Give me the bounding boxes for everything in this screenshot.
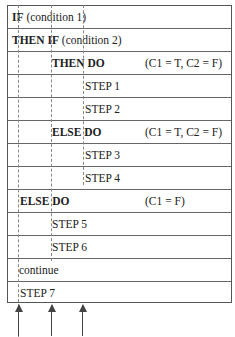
structured-code-table: IF (condition 1) THEN IF (condition 2) T… <box>7 5 232 303</box>
step-text: STEP 3 <box>85 148 120 162</box>
step-text: STEP 1 <box>85 79 120 93</box>
up-arrow-icon <box>18 305 19 336</box>
keyword: ELSE DO <box>52 125 102 139</box>
condition-note: (C1 = T, C2 = F) <box>145 125 222 139</box>
row-label: THEN IF (condition 2) <box>12 33 122 47</box>
row-then-if-condition-2: THEN IF (condition 2) <box>8 29 231 52</box>
indent-guide-level-2 <box>51 5 52 261</box>
condition-note: (C1 = F) <box>145 194 185 208</box>
indent-guide-level-3 <box>83 5 84 185</box>
keyword: ELSE DO <box>20 194 70 208</box>
row-then-do: THEN DO (C1 = T, C2 = F) <box>8 52 231 75</box>
step-text: continue <box>19 263 59 277</box>
condition-text: (condition 2) <box>59 34 122 46</box>
step-text: STEP 2 <box>85 102 120 116</box>
step-text: STEP 5 <box>52 217 87 231</box>
row-step-5: STEP 5 <box>8 213 231 236</box>
row-else-do-inner: ELSE DO (C1 = T, C2 = F) <box>8 121 231 144</box>
up-arrow-icon <box>82 305 83 336</box>
row-else-do-outer: ELSE DO (C1 = F) <box>8 190 231 213</box>
row-if-condition-1: IF (condition 1) <box>8 6 231 29</box>
row-step-3: STEP 3 <box>8 144 231 167</box>
step-text: STEP 7 <box>20 286 55 300</box>
step-text: STEP 6 <box>52 240 87 254</box>
row-step-6: STEP 6 <box>8 236 231 259</box>
row-step-1: STEP 1 <box>8 75 231 98</box>
up-arrow-icon <box>51 305 52 336</box>
condition-note: (C1 = T, C2 = F) <box>145 56 222 70</box>
row-step-2: STEP 2 <box>8 98 231 121</box>
step-text: STEP 4 <box>85 171 120 185</box>
condition-text: (condition 1) <box>24 11 87 23</box>
row-continue: continue <box>8 259 231 282</box>
keyword: THEN DO <box>52 56 105 70</box>
row-step-7: STEP 7 <box>8 282 231 305</box>
row-label: IF (condition 1) <box>12 10 86 24</box>
row-step-4: STEP 4 <box>8 167 231 190</box>
indent-guide-level-1 <box>18 5 19 337</box>
